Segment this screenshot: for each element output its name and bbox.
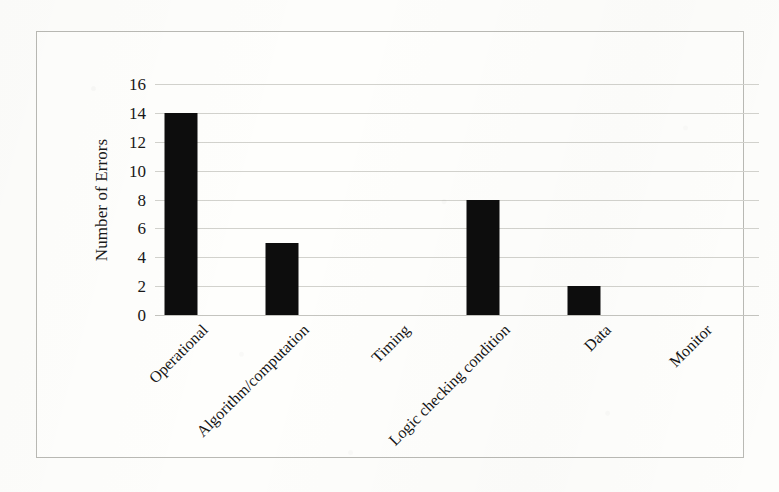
y-tick-label-10: 10 xyxy=(129,162,146,179)
bar-logic-checking-condition[interactable] xyxy=(467,200,500,316)
x-axis-label-text: Monitor xyxy=(666,321,716,371)
gridline-14 xyxy=(155,113,759,114)
y-tick-label-14: 14 xyxy=(129,104,146,121)
chart-frame: Number of Errors 0246810121416 Operation… xyxy=(36,31,744,458)
y-tick-label-12: 12 xyxy=(129,133,146,150)
gridline-10 xyxy=(155,171,759,172)
bar-data[interactable] xyxy=(568,286,601,315)
y-axis-title: Number of Errors xyxy=(91,84,113,315)
bar-operational[interactable] xyxy=(165,113,198,315)
x-axis-label-text: Data xyxy=(581,321,615,355)
gridline-12 xyxy=(155,142,759,143)
x-axis-label-text: Operational xyxy=(146,321,212,387)
x-axis-label-text: Algorithm/computation xyxy=(193,321,313,441)
y-tick-label-4: 4 xyxy=(138,249,147,266)
y-tick-label-0: 0 xyxy=(138,307,147,324)
x-axis-baseline xyxy=(155,315,759,316)
y-axis-title-text: Number of Errors xyxy=(92,138,112,260)
y-tick-label-8: 8 xyxy=(138,191,147,208)
y-tick-label-6: 6 xyxy=(138,220,147,237)
gridline-8 xyxy=(155,200,759,201)
gridline-6 xyxy=(155,228,759,229)
x-axis-label-text: Timing xyxy=(368,321,414,367)
gridline-16 xyxy=(155,84,759,85)
y-tick-label-2: 2 xyxy=(138,278,147,295)
y-tick-label-16: 16 xyxy=(129,76,146,93)
gridline-4 xyxy=(155,257,759,258)
bar-algorithm-computation[interactable] xyxy=(266,243,299,315)
